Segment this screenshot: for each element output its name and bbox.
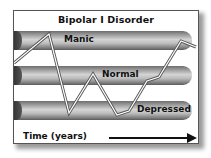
x-axis-label: Time (years) — [23, 131, 87, 141]
arrow-right-icon — [187, 133, 197, 143]
diagram-frame: Bipolar I Disorder Manic Normal Depresse… — [13, 10, 199, 144]
mood-line — [14, 11, 199, 144]
time-arrow-shaft — [109, 137, 191, 139]
mood-line-outline — [14, 34, 196, 115]
mood-line-fill — [14, 34, 196, 115]
